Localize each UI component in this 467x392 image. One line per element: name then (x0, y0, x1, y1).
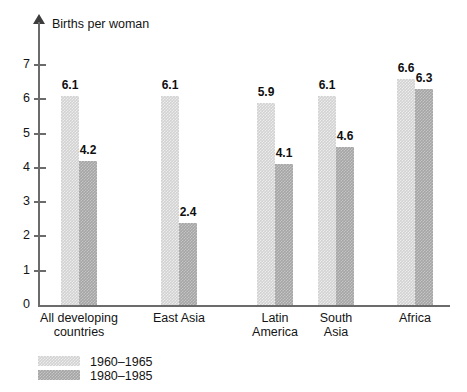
bar (179, 223, 197, 305)
bar-value-label: 2.4 (173, 205, 203, 219)
legend-label: 1960–1965 (90, 355, 153, 369)
bar-value-label: 4.6 (330, 129, 360, 143)
bar (275, 164, 293, 305)
legend-swatch (38, 356, 80, 366)
category-label-line: Africa (355, 311, 467, 325)
bar-chart: Births per woman 01234567 6.14.26.12.45.… (0, 0, 467, 392)
bar (415, 89, 433, 305)
x-axis-category-label: Africa (355, 311, 467, 325)
bar (61, 96, 79, 305)
bar-value-label: 6.1 (155, 78, 185, 92)
bar-value-label: 5.9 (251, 85, 281, 99)
bar-value-label: 6.3 (409, 71, 439, 85)
category-label-line: countries (19, 325, 139, 339)
bar (336, 147, 354, 305)
bar-value-label: 6.1 (55, 78, 85, 92)
bar-value-label: 4.1 (269, 146, 299, 160)
category-label-line: Asia (276, 325, 396, 339)
bar (257, 103, 275, 305)
bar (161, 96, 179, 305)
bar (397, 79, 415, 305)
bar (318, 96, 336, 305)
bars-layer (0, 0, 467, 306)
bar (79, 161, 97, 305)
bar-value-label: 6.1 (312, 78, 342, 92)
legend-label: 1980–1985 (90, 369, 153, 383)
legend-swatch (38, 370, 80, 380)
bar-value-label: 4.2 (73, 143, 103, 157)
